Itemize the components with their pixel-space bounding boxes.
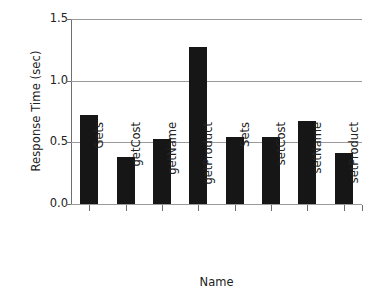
gridline xyxy=(71,81,362,82)
x-tick-mark xyxy=(307,205,308,211)
x-tick-label: getProduct xyxy=(203,122,215,212)
x-tick-label: getCost xyxy=(131,122,143,212)
x-tick-mark xyxy=(89,205,90,211)
y-tick-label: 1.5 xyxy=(38,13,68,25)
x-tick-label: Sets xyxy=(240,122,252,212)
bar-chart: Response Time (sec) 0.0 0.5 1.0 1.5 Gets… xyxy=(0,0,377,301)
x-tick-label: getName xyxy=(167,122,179,212)
x-tick-label: setName xyxy=(312,122,324,212)
x-axis-title: Name xyxy=(71,275,362,289)
x-tick-mark xyxy=(362,205,363,211)
x-tick-mark xyxy=(271,205,272,211)
y-tick-label: 0.5 xyxy=(38,136,68,148)
x-tick-label: Gets xyxy=(94,122,106,212)
x-tick-mark xyxy=(162,205,163,211)
y-tick-label: 0.0 xyxy=(38,198,68,210)
x-tick-mark xyxy=(198,205,199,211)
gridline xyxy=(71,19,362,20)
x-tick-mark xyxy=(344,205,345,211)
x-tick-mark xyxy=(235,205,236,211)
x-tick-mark xyxy=(126,205,127,211)
y-axis-tick-labels: 0.0 0.5 1.0 1.5 xyxy=(38,0,68,301)
y-tick-label: 1.0 xyxy=(38,75,68,87)
x-tick-label: setProduct xyxy=(349,122,361,212)
x-tick-label: setCost xyxy=(276,122,288,212)
